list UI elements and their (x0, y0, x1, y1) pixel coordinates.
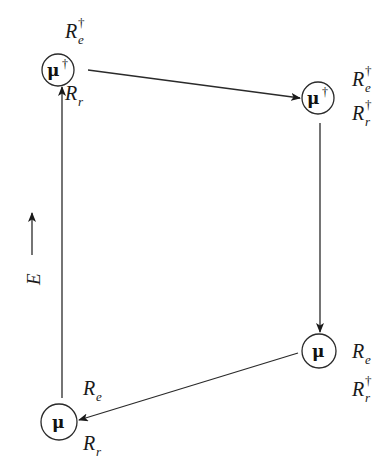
label-superscript: † (78, 15, 85, 30)
label-upper: R e (82, 377, 102, 404)
label-base: R (82, 377, 95, 399)
label-lower: R r (64, 82, 84, 109)
label-base: R (351, 340, 364, 362)
label-base: R (82, 432, 95, 454)
label-superscript: † (365, 373, 372, 388)
node-bottom-right: μ R e R r † (302, 334, 372, 405)
label-base: R (351, 68, 364, 90)
node-mu-symbol: μ (47, 60, 59, 80)
label-upper: R e † (64, 15, 85, 47)
label-base: R (351, 378, 364, 400)
label-upper: R e † (351, 63, 372, 95)
edge-top-left-to-top-right (88, 70, 300, 98)
label-base: R (351, 102, 364, 124)
label-upper: R e (351, 340, 371, 367)
label-subscript: r (365, 114, 371, 129)
edge-bottom-right-to-bottom-left (79, 353, 298, 420)
cycle-diagram: E μ † R e † R r μ † R e † R r † (0, 0, 389, 468)
node-mu-symbol: μ (312, 341, 324, 361)
energy-axis: E (23, 213, 44, 286)
node-mu-symbol: μ (307, 88, 319, 108)
label-subscript: e (78, 32, 84, 47)
label-base: R (64, 20, 77, 42)
node-dagger: † (322, 85, 328, 99)
label-subscript: e (365, 352, 371, 367)
node-top-right: μ † R e † R r † (302, 63, 372, 129)
label-lower: R r † (351, 373, 372, 405)
label-lower: R r † (351, 97, 372, 129)
label-lower: R r (82, 432, 102, 459)
node-bottom-left: μ R e R r (41, 377, 102, 459)
node-dagger: † (62, 57, 68, 71)
label-superscript: † (365, 63, 372, 78)
label-base: R (64, 82, 77, 104)
label-subscript: e (96, 389, 102, 404)
node-top-left: μ † R e † R r (42, 15, 85, 109)
label-subscript: r (365, 390, 371, 405)
label-subscript: e (365, 80, 371, 95)
label-subscript: r (78, 94, 84, 109)
node-mu-symbol: μ (52, 412, 64, 432)
energy-axis-label: E (23, 273, 44, 286)
label-subscript: r (96, 444, 102, 459)
label-superscript: † (365, 97, 372, 112)
